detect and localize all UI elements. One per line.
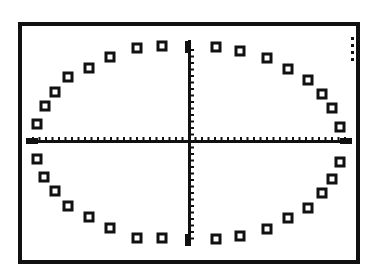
x-axis-tick (253, 137, 255, 140)
data-point-square (33, 120, 41, 128)
data-point-square (64, 73, 72, 81)
y-axis-tick (191, 192, 194, 194)
data-point-square (51, 187, 59, 195)
x-axis-tick (260, 137, 262, 140)
y-axis-bottom-end-marker (185, 234, 191, 246)
y-axis-tick (191, 186, 194, 188)
data-point-square (263, 225, 271, 233)
y-axis-tick (191, 205, 194, 207)
x-axis-tick (318, 137, 320, 140)
data-point-square (284, 65, 292, 73)
y-axis-tick (191, 179, 194, 181)
x-axis-tick (117, 137, 119, 140)
x-axis-tick (234, 137, 236, 140)
data-point-square (158, 42, 166, 50)
y-axis-tick (191, 95, 194, 97)
x-axis-right-end-marker (340, 138, 352, 144)
x-axis-tick (286, 137, 288, 140)
x-axis-tick (91, 137, 93, 140)
x-axis-tick (266, 137, 268, 140)
data-point-square (212, 43, 220, 51)
x-axis-tick (58, 137, 60, 140)
data-point-square (336, 158, 344, 166)
x-axis-tick (149, 137, 151, 140)
y-axis-tick (191, 231, 194, 233)
x-axis-tick (201, 137, 203, 140)
data-point-square (85, 213, 93, 221)
x-axis-tick (312, 137, 314, 140)
y-axis-tick (191, 69, 194, 71)
x-axis-tick (162, 137, 164, 140)
y-axis-tick (191, 56, 194, 58)
busy-indicator-dot (351, 44, 354, 47)
data-point-square (318, 90, 326, 98)
y-axis-tick (191, 114, 194, 116)
y-axis-tick (191, 49, 194, 51)
data-point-square (51, 88, 59, 96)
x-axis-tick (110, 137, 112, 140)
y-axis-tick (191, 166, 194, 168)
x-axis-tick (292, 137, 294, 140)
x-axis-tick (325, 137, 327, 140)
data-point-square (106, 224, 114, 232)
x-axis-tick (195, 137, 197, 140)
y-axis-tick (191, 75, 194, 77)
data-point-square (336, 123, 344, 131)
x-axis-tick (136, 137, 138, 140)
x-axis-tick (104, 137, 106, 140)
data-point-square (236, 47, 244, 55)
x-axis-tick (331, 137, 333, 140)
data-point-square (328, 104, 336, 112)
busy-indicator-dot (351, 51, 354, 54)
y-axis-tick (191, 153, 194, 155)
data-point-square (328, 175, 336, 183)
x-axis-tick (156, 137, 158, 140)
y-axis-tick (191, 82, 194, 84)
data-point-square (33, 155, 41, 163)
busy-indicator-dot (351, 37, 354, 40)
data-point-square (212, 235, 220, 243)
x-axis-tick (279, 137, 281, 140)
y-axis-tick (191, 212, 194, 214)
x-axis-tick (84, 137, 86, 140)
x-axis-tick (247, 137, 249, 140)
x-axis-tick (123, 137, 125, 140)
y-axis-tick (191, 238, 194, 240)
x-axis-tick (78, 137, 80, 140)
data-point-square (133, 234, 141, 242)
x-axis-tick (299, 137, 301, 140)
data-point-square (284, 214, 292, 222)
x-axis-tick (214, 137, 216, 140)
x-axis-tick (208, 137, 210, 140)
y-axis-top-end-marker (185, 41, 191, 53)
x-axis-tick (273, 137, 275, 140)
data-point-square (236, 232, 244, 240)
x-axis-tick (305, 137, 307, 140)
x-axis-tick (45, 137, 47, 140)
y-axis-tick (191, 121, 194, 123)
x-axis-tick (227, 137, 229, 140)
data-point-square (318, 189, 326, 197)
x-axis-left-end-marker (26, 138, 38, 144)
x-axis-tick (169, 137, 171, 140)
data-point-square (158, 234, 166, 242)
data-point-square (85, 64, 93, 72)
y-axis-tick (191, 127, 194, 129)
data-point-square (106, 53, 114, 61)
y-axis (188, 40, 191, 246)
x-axis-tick (221, 137, 223, 140)
x-axis-tick (338, 137, 340, 140)
y-axis-tick (191, 108, 194, 110)
x-axis-tick (71, 137, 73, 140)
x-axis-tick (240, 137, 242, 140)
data-point-square (304, 204, 312, 212)
x-axis-tick (97, 137, 99, 140)
data-point-square (40, 173, 48, 181)
x-axis-tick (39, 137, 41, 140)
y-axis-tick (191, 101, 194, 103)
y-axis-tick (191, 225, 194, 227)
x-axis-tick (143, 137, 145, 140)
data-point-square (64, 202, 72, 210)
data-point-square (263, 54, 271, 62)
data-point-square (41, 102, 49, 110)
